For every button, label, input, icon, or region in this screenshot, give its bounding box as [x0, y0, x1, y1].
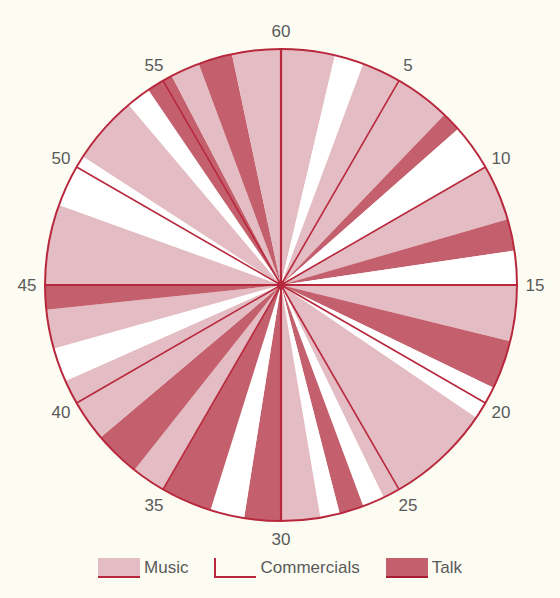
minute-label: 60 — [272, 22, 291, 41]
music-swatch-icon — [98, 558, 140, 578]
legend-label-commercials: Commercials — [260, 558, 359, 578]
legend-label-music: Music — [144, 558, 188, 578]
minute-label: 50 — [52, 149, 71, 168]
legend-item-commercials: Commercials — [214, 558, 359, 578]
minute-label: 55 — [145, 56, 164, 75]
minute-label: 40 — [52, 403, 71, 422]
talk-swatch-icon — [386, 558, 428, 578]
minute-label: 45 — [18, 276, 37, 295]
minute-label: 5 — [403, 56, 412, 75]
minute-label: 35 — [145, 496, 164, 515]
minute-label: 10 — [492, 149, 511, 168]
minute-label: 15 — [526, 276, 545, 295]
minute-label: 20 — [492, 403, 511, 422]
minute-label: 30 — [272, 530, 291, 549]
legend-item-talk: Talk — [386, 558, 462, 578]
minute-label: 25 — [399, 496, 418, 515]
commercials-line-icon — [214, 558, 256, 578]
legend-label-talk: Talk — [432, 558, 462, 578]
center-hub — [277, 281, 285, 289]
legend: Music Commercials Talk — [0, 558, 560, 578]
legend-item-music: Music — [98, 558, 188, 578]
radio-hour-clock-chart: 60510152025303540455055 — [0, 0, 560, 560]
